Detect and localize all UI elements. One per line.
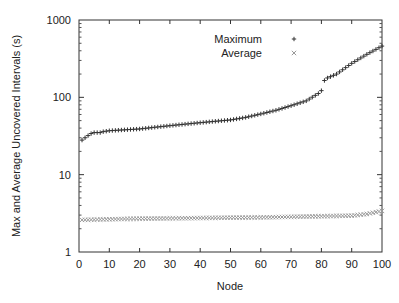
- data-point-maximum: [295, 102, 299, 106]
- x-tick-label: 90: [346, 258, 358, 270]
- data-point-maximum: [231, 117, 235, 121]
- y-axis-label: Max and Average Uncovered Intervals (s): [10, 35, 22, 237]
- data-point-maximum: [253, 113, 257, 117]
- data-point-maximum: [80, 138, 84, 142]
- legend-label-maximum: Maximum: [214, 33, 262, 45]
- data-point-maximum: [98, 130, 102, 134]
- legend: MaximumAverage: [214, 33, 296, 59]
- data-point-maximum: [322, 78, 326, 82]
- y-tick-label: 10: [59, 169, 71, 181]
- data-point-maximum: [240, 116, 244, 120]
- data-point-maximum: [243, 115, 247, 119]
- data-point-maximum: [340, 68, 344, 72]
- data-point-maximum: [265, 110, 269, 114]
- data-point-maximum: [337, 70, 341, 74]
- y-tick-label: 1000: [47, 14, 71, 26]
- data-point-maximum: [271, 109, 275, 113]
- data-point-maximum: [283, 105, 287, 109]
- x-tick-label: 10: [103, 258, 115, 270]
- data-point-maximum: [277, 107, 281, 111]
- data-point-maximum: [268, 110, 272, 114]
- x-tick-label: 20: [133, 258, 145, 270]
- data-point-maximum: [346, 63, 350, 67]
- x-tick-label: 40: [194, 258, 206, 270]
- data-point-maximum: [262, 111, 266, 115]
- data-point-maximum: [234, 117, 238, 121]
- data-point-maximum: [83, 136, 87, 140]
- legend-label-average: Average: [221, 47, 262, 59]
- points: [80, 44, 384, 222]
- data-point-maximum: [280, 106, 284, 110]
- x-tick-label: 0: [76, 258, 82, 270]
- data-point-maximum: [256, 112, 260, 116]
- data-point-maximum: [286, 104, 290, 108]
- data-point-maximum: [292, 103, 296, 107]
- x-axis-label: Node: [217, 280, 243, 292]
- chart: 01020304050607080901001101001000 Node Ma…: [0, 0, 399, 303]
- data-point-maximum: [237, 116, 241, 120]
- x-tick-label: 30: [164, 258, 176, 270]
- data-point-maximum: [274, 108, 278, 112]
- data-point-maximum: [289, 103, 293, 107]
- data-point-maximum: [246, 115, 250, 119]
- y-tick-label: 100: [53, 91, 71, 103]
- y-tick-label: 1: [65, 246, 71, 258]
- data-point-maximum: [259, 112, 263, 116]
- legend-marker-maximum: [292, 37, 296, 41]
- data-point-maximum: [298, 101, 302, 105]
- data-point-maximum: [250, 114, 254, 118]
- x-tick-label: 50: [224, 258, 236, 270]
- data-point-maximum: [319, 88, 323, 92]
- legend-marker-average: [292, 51, 296, 55]
- x-tick-label: 60: [255, 258, 267, 270]
- x-tick-label: 100: [373, 258, 391, 270]
- tick-labels: 01020304050607080901001101001000: [47, 14, 392, 270]
- x-tick-label: 80: [315, 258, 327, 270]
- data-point-maximum: [301, 100, 305, 104]
- x-tick-label: 70: [285, 258, 297, 270]
- data-point-maximum: [343, 65, 347, 69]
- data-point-maximum: [228, 118, 232, 122]
